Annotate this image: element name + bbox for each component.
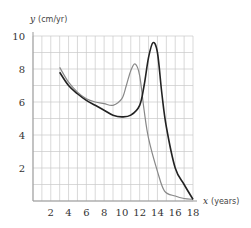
x-tick-label: 8 xyxy=(101,207,107,218)
x-tick-label: 12 xyxy=(133,207,146,218)
y-axis-label: y(cm/yr) xyxy=(29,14,67,24)
x-tick-label: 2 xyxy=(48,207,54,218)
grid xyxy=(33,36,193,201)
x-tick-label: 18 xyxy=(187,207,200,218)
y-tick-label: 4 xyxy=(19,130,25,141)
x-tick-label: 4 xyxy=(65,207,71,218)
x-tick-label: 14 xyxy=(151,207,164,218)
y-tick-label: 10 xyxy=(12,31,25,42)
x-tick-label: 16 xyxy=(169,207,182,218)
tick-labels: 24681012141618246810 xyxy=(12,31,199,219)
growth-rate-chart: 24681012141618246810 y(cm/yr) x(years) xyxy=(0,0,251,228)
series-lines xyxy=(60,42,193,199)
y-tick-label: 8 xyxy=(19,64,25,75)
x-tick-label: 6 xyxy=(83,207,89,218)
y-tick-label: 2 xyxy=(19,163,25,174)
x-tick-label: 10 xyxy=(116,207,129,218)
dark-curve xyxy=(60,42,193,199)
y-tick-label: 6 xyxy=(19,97,25,108)
gray-curve xyxy=(60,64,193,199)
x-axis-label: x(years) xyxy=(203,196,239,206)
